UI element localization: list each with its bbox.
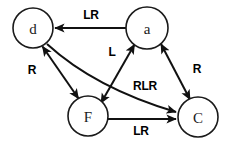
node-F[interactable]: F (68, 96, 108, 136)
edge-F-to-C-label: LR (133, 124, 149, 138)
edge-a-to-d: LR (55, 8, 126, 28)
node-a-label: a (144, 21, 151, 37)
edge-a-C: R (161, 44, 202, 100)
node-C-label: C (193, 110, 203, 126)
edge-d-F: R (28, 47, 79, 99)
graph-diagram: LR R L R RLR LR d (0, 0, 225, 142)
node-F-label: F (84, 109, 92, 125)
graph-canvas: LR R L R RLR LR d (0, 0, 225, 142)
edge-a-F: L (101, 45, 135, 104)
edge-a-F-line (101, 45, 135, 104)
node-C[interactable]: C (178, 97, 218, 137)
node-d-label: d (29, 21, 37, 37)
node-a[interactable]: a (126, 7, 168, 49)
edge-a-F-label: L (108, 45, 115, 59)
edge-d-to-C-label: RLR (133, 79, 158, 93)
edge-d-F-label: R (28, 63, 37, 77)
edge-a-C-label: R (193, 62, 202, 76)
node-d[interactable]: d (13, 8, 53, 48)
edge-a-to-d-label: LR (83, 8, 99, 22)
edge-a-C-line (161, 44, 190, 100)
edge-F-to-C: LR (108, 119, 176, 138)
